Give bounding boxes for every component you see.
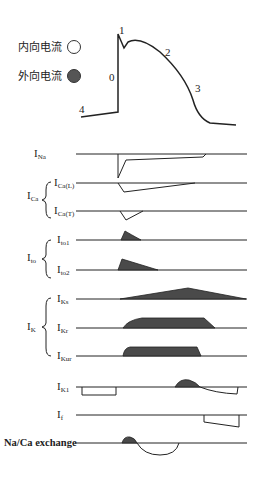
group-brace-ica bbox=[42, 182, 51, 218]
trace-if: If bbox=[57, 408, 247, 427]
svg-text:ICa(T): ICa(T) bbox=[54, 204, 75, 218]
group-label-ica: ICa bbox=[27, 189, 39, 203]
group-brace-ik bbox=[42, 298, 51, 356]
phase-label-0: 0 bbox=[109, 71, 115, 83]
svg-text:IKs: IKs bbox=[57, 292, 69, 306]
legend-inward-label: 内向电流 bbox=[18, 40, 62, 54]
trace-ica-t: ICa(T) bbox=[54, 204, 247, 220]
group-brace-ito bbox=[42, 240, 51, 278]
phase-label-4: 4 bbox=[79, 103, 85, 115]
trace-ito2: Ito2 bbox=[57, 259, 247, 277]
group-label-ik: IK bbox=[27, 320, 36, 334]
svg-text:IK1: IK1 bbox=[57, 380, 70, 394]
phase-label-3: 3 bbox=[195, 82, 201, 94]
action-potential-curve bbox=[81, 34, 236, 125]
trace-ina: INa bbox=[34, 147, 247, 178]
svg-text:Ito1: Ito1 bbox=[57, 233, 70, 247]
svg-text:Na/Ca exchange: Na/Ca exchange bbox=[4, 437, 77, 448]
svg-text:INa: INa bbox=[34, 147, 47, 161]
phase-label-1: 1 bbox=[119, 24, 125, 36]
trace-ito1: Ito1 bbox=[57, 231, 247, 247]
svg-text:ICa(L): ICa(L) bbox=[54, 176, 75, 190]
trace-ica-l: ICa(L) bbox=[54, 176, 247, 192]
trace-naca-exchange: Na/Ca exchange bbox=[4, 437, 247, 455]
group-label-ito: Ito bbox=[27, 251, 37, 265]
trace-ikur: IKur bbox=[57, 347, 247, 363]
svg-text:IKur: IKur bbox=[57, 349, 72, 363]
trace-iks: IKs bbox=[57, 288, 247, 306]
svg-text:If: If bbox=[57, 408, 64, 422]
legend-outward-label: 外向电流 bbox=[18, 69, 62, 83]
svg-text:Ito2: Ito2 bbox=[57, 263, 70, 277]
phase-label-2: 2 bbox=[165, 46, 171, 58]
cardiac-ion-current-diagram: 内向电流 外向电流 1 2 3 0 4 INa ICa ICa(L) ICa(T… bbox=[0, 0, 267, 477]
inward-current-open-circle-icon bbox=[68, 41, 81, 54]
svg-text:IKr: IKr bbox=[57, 321, 69, 335]
trace-ik1: IK1 bbox=[57, 380, 247, 395]
trace-ikr: IKr bbox=[57, 318, 247, 335]
outward-current-filled-circle-icon bbox=[68, 70, 81, 83]
